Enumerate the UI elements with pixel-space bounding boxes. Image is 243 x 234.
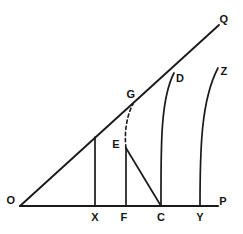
point-label-e: E (112, 139, 120, 150)
diagonal-ec (126, 148, 161, 206)
ray-oq (20, 25, 219, 206)
point-label-d: D (176, 73, 184, 84)
curve-yz (200, 68, 218, 206)
point-label-q: Q (220, 14, 229, 25)
geometry-figure: O P Q X F C Y E G D Z (0, 0, 243, 234)
point-label-o: O (7, 195, 16, 206)
diagram-canvas (0, 0, 243, 234)
point-label-z: Z (221, 66, 228, 77)
point-label-x: X (91, 212, 99, 223)
point-label-y: Y (196, 212, 204, 223)
point-label-p: P (219, 196, 227, 207)
point-label-f: F (121, 212, 128, 223)
curve-cd (161, 73, 174, 206)
dashed-curve-eg (125, 104, 133, 148)
point-label-g: G (127, 89, 136, 100)
point-label-c: C (157, 212, 165, 223)
